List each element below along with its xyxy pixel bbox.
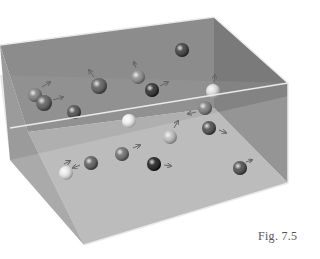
- gas-box-diagram: [0, 0, 320, 259]
- molecule-highlight: [84, 156, 98, 170]
- molecule-highlight: [115, 147, 129, 161]
- molecule-highlight: [122, 114, 136, 128]
- molecule-highlight: [175, 43, 189, 57]
- molecule: [122, 114, 136, 128]
- molecule: [175, 43, 189, 57]
- molecule-highlight: [163, 130, 177, 144]
- molecule-highlight: [131, 70, 145, 84]
- molecule-highlight: [202, 121, 216, 135]
- molecule-highlight: [233, 161, 247, 175]
- molecule-highlight: [198, 101, 212, 115]
- molecule-highlight: [145, 83, 159, 97]
- molecule-highlight: [91, 78, 107, 94]
- molecule-highlight: [59, 166, 73, 180]
- molecule-highlight: [147, 157, 161, 171]
- molecule-highlight: [36, 95, 52, 111]
- figure-caption: Fig. 7.5: [258, 229, 297, 244]
